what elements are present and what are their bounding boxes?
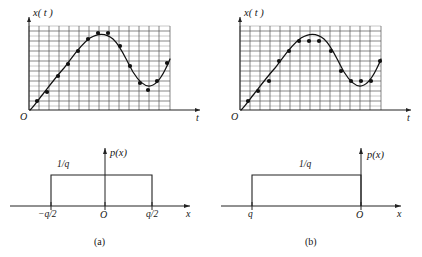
panel-a-pdf: p(x) 1/q −q/2 O q/2 x (a) <box>0 128 211 257</box>
panel-a-pdf-height-label: 1/q <box>57 160 69 170</box>
figure-root: x( t ) O t <box>0 0 422 257</box>
panel-b-signal-y-label: x( t ) <box>244 8 264 19</box>
panel-a-pdf-left-tick-label: −q/2 <box>38 210 57 220</box>
panel-b-pdf-origin-label: O <box>356 210 363 220</box>
axes <box>10 148 190 208</box>
panel-b-pdf-x-label: x <box>397 209 401 219</box>
panel-b-pdf-left-tick-label: q <box>248 210 253 220</box>
panel-a-signal-y-label: x( t ) <box>33 8 53 19</box>
grid-vertical <box>29 26 170 110</box>
panel-a-pdf-right-tick-label: q/2 <box>146 210 158 220</box>
panel-b-pdf: p(x) 1/q q O x (b) <box>211 128 422 257</box>
panel-a-signal: x( t ) O t <box>0 0 211 128</box>
panel-b-signal: x( t ) O t <box>211 0 422 128</box>
panel-a-pdf-origin-label: O <box>100 210 107 220</box>
panel-b-pdf-y-label: p(x) <box>367 150 384 161</box>
panel-b-caption: (b) <box>305 236 317 247</box>
panel-a-signal-origin-label: O <box>20 112 27 122</box>
panel-a-pdf-x-label: x <box>186 209 190 219</box>
panel-a-caption: (a) <box>94 236 105 247</box>
panel-a-signal-svg <box>0 0 211 128</box>
panel-a-signal-x-label: t <box>196 113 199 123</box>
panel-b-pdf-height-label: 1/q <box>299 160 311 170</box>
uniform-pulse <box>252 175 361 206</box>
grid-vertical <box>240 26 381 110</box>
panel-b-signal-x-label: t <box>407 113 410 123</box>
panel-a-pdf-y-label: p(x) <box>110 148 127 159</box>
panel-b-signal-origin-label: O <box>231 112 238 122</box>
panel-a-pdf-svg <box>0 128 211 257</box>
uniform-pulse <box>51 175 152 206</box>
panel-b-signal-svg <box>211 0 422 128</box>
